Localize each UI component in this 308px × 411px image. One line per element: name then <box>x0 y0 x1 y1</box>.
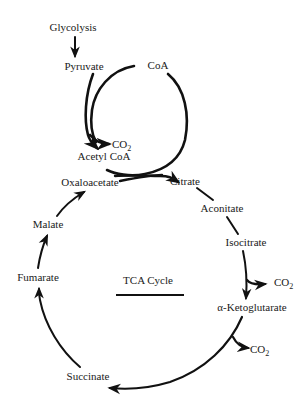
coa-label: CoA <box>148 59 169 71</box>
arrow-co2-release-idh <box>247 280 265 284</box>
glycolysis-label: Glycolysis <box>49 21 96 33</box>
arrow-malate-to-oxaloacetate <box>57 192 84 216</box>
fumarate-label: Fumarate <box>17 271 59 283</box>
citrate-label: Citrate <box>170 175 200 187</box>
arrow-isocitrate-to-akg <box>243 251 246 298</box>
glycolysis-node: Glycolysis <box>49 21 96 33</box>
pyruvate-label: Pyruvate <box>64 60 103 72</box>
malate-label: Malate <box>33 218 64 230</box>
succinate-label: Succinate <box>67 370 110 382</box>
isocitrate-label: Isocitrate <box>226 236 267 248</box>
alpha-ketoglutarate-label: α-Ketoglutarate <box>217 301 286 313</box>
arrow-aconitate-to-isocitrate <box>227 217 238 234</box>
arrow-fumarate-to-malate <box>38 236 47 268</box>
aconitate-label: Aconitate <box>201 202 244 214</box>
oxaloacetate-label: Oxaloacetate <box>61 176 119 188</box>
arrow-citrate-to-aconitate <box>197 188 213 200</box>
coa-incoming-arc <box>91 66 134 142</box>
acetyl-coa-label: Acetyl CoA <box>78 150 131 162</box>
tca-cycle-diagram: Glycolysis Pyruvate CO2 CoA Acetyl CoA O… <box>0 0 308 411</box>
diagram-title: TCA Cycle <box>123 274 173 286</box>
co2-akgdh-label: CO2 <box>250 343 269 358</box>
arrow-akg-to-succinate <box>110 317 242 389</box>
co2-idh-label: CO2 <box>274 276 293 291</box>
arrow-succinate-to-fumarate <box>39 289 80 367</box>
arrow-co2-release-akgdh <box>233 337 248 348</box>
